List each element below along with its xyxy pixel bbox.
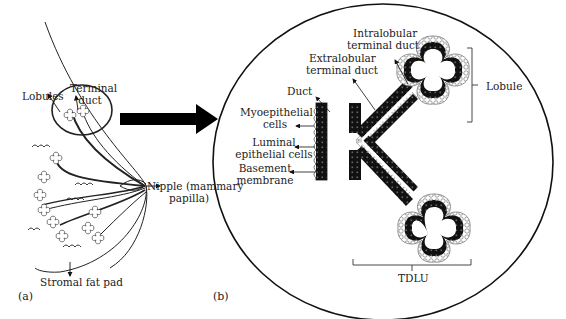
label-intralobular-terminal-duct: Intralobular terminal duct — [347, 27, 419, 51]
breast-sketch — [35, 22, 147, 272]
label-lobules: Lobules — [22, 90, 64, 102]
label-lobule: Lobule — [486, 80, 522, 92]
mammary-gland-figure: Lobules Terminal duct Nipple (mammary pa… — [0, 0, 566, 319]
lobule-flowers-a — [34, 105, 104, 244]
label-stromal-fat-pad: Stromal fat pad — [40, 276, 123, 288]
magnify-arrow — [120, 104, 218, 134]
label-tdlu: TDLU — [398, 272, 429, 284]
label-terminal-duct: Terminal duct — [70, 82, 110, 106]
label-luminal-epithelial-cells: Luminal epithelial cells — [234, 136, 314, 160]
label-nipple: Nipple (mammary papilla) — [147, 180, 243, 204]
label-basement-membrane: Basement membrane — [234, 162, 296, 186]
label-extralobular-terminal-duct: Extralobular terminal duct — [306, 52, 378, 76]
label-myoepithelial-cells: Myoepithelial cells — [240, 106, 310, 130]
panel-b-tag: (b) — [213, 291, 229, 303]
panel-a-tag: (a) — [18, 291, 33, 303]
label-duct: Duct — [287, 85, 312, 97]
